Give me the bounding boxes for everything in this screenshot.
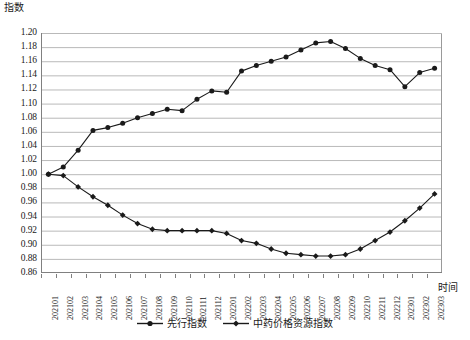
series-line [48,174,434,256]
data-point-diamond [253,240,259,246]
x-axis-ticks [41,274,442,279]
y-tick-label: 1.18 [21,42,37,52]
y-tick-label: 1.08 [21,113,37,123]
legend-item-2[interactable]: 中药价格资源指数 [223,318,333,329]
x-tick-label: 202108 [156,296,164,320]
x-tick-label: 202106 [126,296,134,320]
data-point-circle [61,165,66,170]
data-point-diamond [120,212,126,218]
x-axis-tick-labels: 2021012021022021032021042021052021062021… [41,276,442,324]
data-point-circle [358,56,363,61]
x-tick-label: 202110 [186,296,194,320]
data-point-circle [105,125,110,130]
data-point-diamond [239,238,245,244]
x-tick-label: 202302 [423,296,431,320]
data-point-diamond [209,228,215,234]
x-tick-label: 202212 [394,296,402,320]
x-tick-label: 202204 [275,296,283,320]
x-tick-label: 202103 [82,296,90,320]
data-point-circle [313,40,318,45]
data-point-circle [239,69,244,74]
data-point-diamond [357,246,363,252]
data-point-circle [135,115,140,120]
x-tick-label: 202105 [111,296,119,320]
x-tick-label: 202111 [200,297,208,320]
x-tick-label: 202109 [171,296,179,320]
y-tick-label: 1.20 [21,28,37,38]
data-point-diamond [372,238,378,244]
legend-label: 先行指数 [167,318,207,329]
data-point-circle [328,39,333,44]
data-point-circle [298,47,303,52]
data-point-diamond [268,246,274,252]
y-tick-label: 0.92 [21,226,37,236]
y-tick-label: 1.04 [21,141,37,151]
data-point-circle [388,67,393,72]
y-tick-label: 0.96 [21,197,37,207]
y-tick-label: 0.94 [21,212,37,222]
plot-area [41,33,442,273]
legend-circle-marker-icon [137,319,163,328]
data-point-diamond [298,252,304,258]
data-point-diamond [149,226,155,232]
x-tick-label: 202206 [304,296,312,320]
x-tick-label: 202203 [260,296,268,320]
data-point-diamond [164,228,170,234]
data-point-circle [194,97,199,102]
y-tick-label: 0.98 [21,183,37,193]
data-point-circle [254,63,259,68]
y-tick-label: 1.14 [21,70,37,80]
x-tick-label: 202102 [67,296,75,320]
x-tick-label: 202207 [319,296,327,320]
data-point-diamond [46,171,52,177]
y-tick-label: 1.12 [21,84,37,94]
x-tick-label: 202202 [245,296,253,320]
data-point-diamond [328,253,334,259]
legend-item-1[interactable]: 先行指数 [137,318,207,329]
x-tick-label: 202210 [364,296,372,320]
data-point-circle [180,108,185,113]
y-tick-label: 1.06 [21,127,37,137]
series-line [48,41,434,174]
data-point-circle [76,148,81,153]
data-point-circle [373,63,378,68]
x-axis-title: 时间 [438,282,458,293]
data-point-diamond [90,194,96,200]
x-tick-label: 202104 [96,296,104,320]
y-tick-label: 1.00 [21,169,37,179]
y-axis-tick-labels: 1.201.181.161.141.121.101.081.061.041.02… [0,0,37,340]
y-tick-label: 0.88 [21,254,37,264]
data-point-diamond [283,250,289,256]
data-point-circle [224,90,229,95]
y-tick-label: 1.16 [21,56,37,66]
y-tick-label: 1.10 [21,99,37,109]
data-point-circle [209,88,214,93]
data-point-circle [120,121,125,126]
data-point-diamond [313,253,319,259]
x-tick-label: 202107 [141,296,149,320]
data-point-diamond [343,252,349,258]
legend-label: 中药价格资源指数 [253,318,333,329]
data-point-diamond [194,228,200,234]
x-tick-label: 202208 [334,296,342,320]
chart-legend: 先行指数中药价格资源指数 [0,318,470,329]
data-point-circle [150,111,155,116]
data-point-diamond [179,228,185,234]
data-point-diamond [135,221,141,227]
y-tick-label: 0.90 [21,240,37,250]
series-layer [41,33,442,273]
x-tick-label: 202301 [408,296,416,320]
x-tick-label: 202112 [215,296,223,320]
data-point-circle [90,128,95,133]
data-point-circle [165,107,170,112]
x-tick-label: 202303 [438,296,446,320]
data-point-circle [269,59,274,64]
data-point-circle [417,70,422,75]
x-tick-label: 202101 [52,296,60,320]
data-point-circle [343,46,348,51]
series-2 [46,171,438,259]
x-tick-label: 202205 [290,296,298,320]
data-point-circle [432,66,437,71]
x-tick-label: 202211 [379,296,387,320]
y-tick-label: 0.86 [21,268,37,278]
